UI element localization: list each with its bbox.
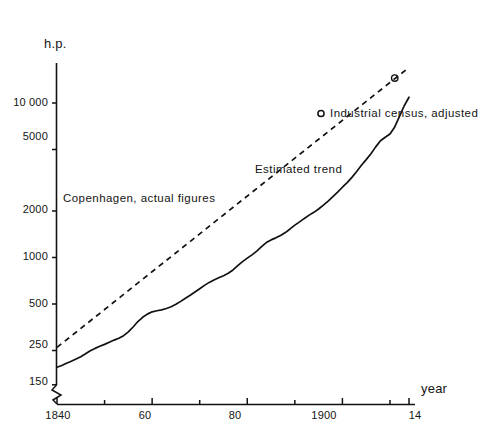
y-tick-label-5000: 5000 — [0, 130, 48, 142]
y-tick-label-250: 250 — [0, 338, 48, 350]
y-tick-label-500: 500 — [0, 297, 48, 309]
annotation-copenhagen-actual: Copenhagen, actual figures — [63, 192, 215, 204]
x-tick-label-1900: 1900 — [299, 409, 349, 421]
chart-figure: h.p. year 10 000 5000 2000 1000 500 250 … — [0, 0, 484, 438]
y-tick-label-2000: 2000 — [0, 203, 48, 215]
y-axis-title: h.p. — [44, 36, 66, 51]
y-tick-label-150: 150 — [0, 375, 48, 387]
x-tick-label-1880: 80 — [213, 409, 257, 421]
census-legend-marker-icon — [318, 110, 324, 116]
x-axis-title: year — [421, 381, 447, 396]
annotation-industrial-census: Industrial census, adjusted — [330, 107, 478, 119]
x-tick-label-1840: 1840 — [36, 409, 80, 421]
series-line-copenhagen-actual — [57, 97, 409, 367]
x-axis-ticks — [57, 398, 409, 404]
x-tick-label-1914: 14 — [393, 409, 437, 421]
x-tick-label-1860: 60 — [123, 409, 167, 421]
y-tick-label-1000: 1000 — [0, 250, 48, 262]
chart-plot-area — [0, 0, 484, 438]
y-tick-label-10000: 10 000 — [0, 96, 48, 108]
annotation-estimated-trend: Estimated trend — [255, 163, 342, 175]
